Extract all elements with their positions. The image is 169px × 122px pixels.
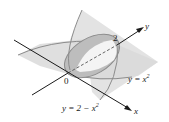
origin-label: 0 [64, 76, 69, 86]
y-axis [32, 73, 68, 95]
y-axis-label: y [144, 21, 149, 31]
curve2-label: y = 2 − x2 [61, 102, 99, 113]
curve2-exponent: 2 [96, 102, 99, 108]
curve2-text: y = 2 − x [61, 103, 96, 113]
curve1-exponent: 2 [147, 73, 150, 79]
x-axis-label: x [133, 106, 138, 116]
curve1-text: y = x [127, 74, 147, 84]
diagram-canvas: 0 y x 2 y = x2 y = 2 − x2 [0, 0, 169, 122]
tick-2-label: 2 [113, 33, 118, 43]
curve1-label: y = x2 [127, 73, 150, 84]
